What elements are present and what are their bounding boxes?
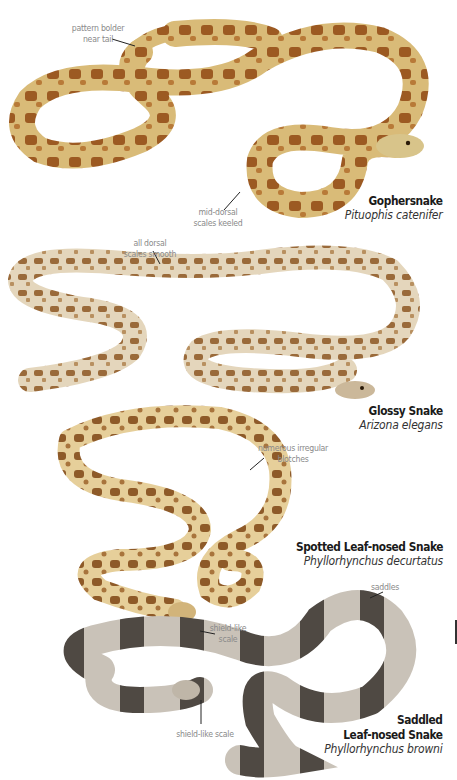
annotation-text: near tail [65,33,131,44]
annotation-text: shield-like scale [168,728,242,739]
glossy-snake-illustration [20,258,408,400]
annotation-shield-scale-saddled: shield-like scale [168,728,242,739]
species-label-spotted-leaf-nosed: Spotted Leaf-nosed Snake Phyllorhynchus … [270,539,443,569]
scientific-name: Phyllorhynchus decurtatus [287,554,443,569]
common-name: Gophersnake [351,193,443,208]
annotation-scales-keeled: mid-dorsal scales keeled [185,206,251,228]
annotation-text: scale [203,633,252,644]
species-label-glossy-snake: Glossy Snake Arizona elegans [350,403,443,433]
annotation-saddles: saddles [360,581,409,592]
annotation-text: scales keeled [185,217,251,228]
common-name: Glossy Snake [364,403,443,418]
species-label-gophersnake: Gophersnake Pituophis catenifer [334,193,443,223]
annotation-text: scales smooth [117,248,183,259]
common-name: Spotted Leaf-nosed Snake [296,539,443,554]
scientific-name: Phyllorhynchus browni [325,742,443,757]
scientific-name: Arizona elegans [359,418,443,433]
annotation-irregular-blotches: numerous irregular blotches [256,442,330,464]
species-label-saddled-leaf-nosed: Saddled Leaf-nosed Snake Phyllorhynchus … [311,712,443,757]
annotation-text: numerous irregular [256,442,330,453]
annotation-pattern-bolder: pattern bolder near tail [65,22,131,44]
annotation-shield-scale-spotted: shield-like scale [203,622,252,644]
annotation-text: saddles [360,581,409,592]
annotation-text: shield-like [203,622,252,633]
common-name-line1: Saddled [331,712,443,727]
snake-illustrations [0,0,457,780]
annotation-text: blotches [256,453,330,464]
spotted-leaf-nosed-illustration [69,416,281,622]
annotation-text: pattern bolder [65,22,131,33]
annotation-scales-smooth: all dorsal scales smooth [117,237,183,259]
gophersnake-illustration [22,31,424,205]
annotation-text: mid-dorsal [185,206,251,217]
common-name-line2: Leaf-nosed Snake [331,727,443,742]
scientific-name: Pituophis catenifer [345,208,443,223]
annotation-text: all dorsal [117,237,183,248]
